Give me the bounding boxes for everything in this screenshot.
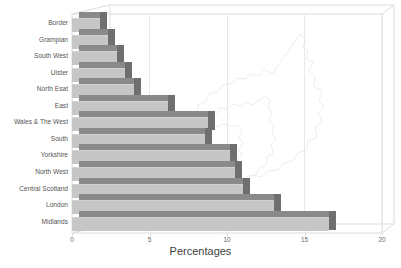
x-axis-tick-label: 5 bbox=[140, 236, 160, 243]
x-axis-tick-label: 10 bbox=[217, 236, 237, 243]
x-axis-tick-label: 0 bbox=[62, 236, 82, 243]
x-axis-title: Percentages bbox=[0, 245, 401, 257]
x-axis-tick-mark bbox=[382, 233, 383, 236]
chart-container: BorderGrampianSouth WestUlsterNorth Esat… bbox=[0, 0, 401, 268]
x-axis-tick-mark bbox=[227, 233, 228, 236]
x-axis-tick-label: 20 bbox=[372, 236, 392, 243]
x-axis: 05101520 Percentages bbox=[0, 0, 401, 268]
x-axis-tick-mark bbox=[150, 233, 151, 236]
x-axis-tick-label: 15 bbox=[295, 236, 315, 243]
x-axis-tick-mark bbox=[72, 233, 73, 236]
x-axis-tick-mark bbox=[305, 233, 306, 236]
